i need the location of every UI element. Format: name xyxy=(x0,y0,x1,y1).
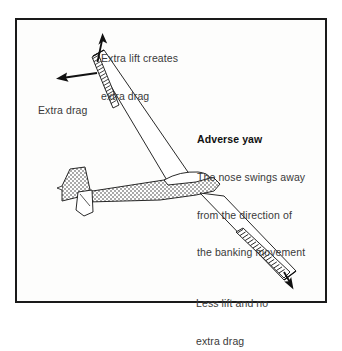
annotation-extra-drag: Extra drag xyxy=(38,79,87,142)
annotation-less-lift-line2: extra drag xyxy=(196,335,268,348)
annotation-adverse-yaw-line3: the banking movement xyxy=(197,246,305,259)
annotation-adverse-yaw: Adverse yaw The nose swings away from th… xyxy=(197,108,305,284)
annotation-extra-lift: Extra lift creates extra drag xyxy=(101,27,178,127)
tailplane xyxy=(76,190,93,216)
annotation-extra-lift-line1: Extra lift creates xyxy=(101,52,178,65)
annotation-extra-drag-line1: Extra drag xyxy=(38,104,87,117)
annotation-extra-lift-line2: extra drag xyxy=(101,90,178,103)
annotation-adverse-yaw-line2: from the direction of xyxy=(197,209,305,222)
annotation-adverse-yaw-line1: The nose swings away xyxy=(197,171,305,184)
annotation-adverse-yaw-title: Adverse yaw xyxy=(197,133,305,146)
annotation-less-lift: Less lift and no extra drag xyxy=(196,272,268,351)
annotation-less-lift-line1: Less lift and no xyxy=(196,297,268,310)
